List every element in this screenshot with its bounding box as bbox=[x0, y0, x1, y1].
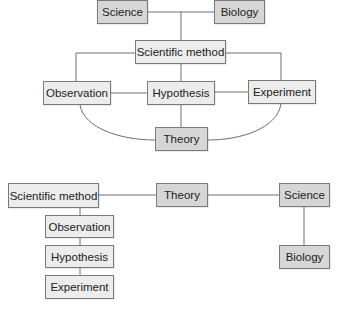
bottom-node-observation: Observation bbox=[45, 215, 114, 238]
bottom-node-biology: Biology bbox=[279, 245, 330, 269]
bottom-node-theory: Theory bbox=[156, 183, 208, 207]
edge-observation-theory bbox=[80, 105, 155, 140]
top-node-hypothesis: Hypothesis bbox=[147, 81, 215, 105]
top-node-biology: Biology bbox=[214, 0, 265, 24]
top-node-scientific-method: Scientific method bbox=[135, 40, 226, 64]
top-node-experiment: Experiment bbox=[248, 80, 316, 104]
top-node-science: Science bbox=[97, 0, 148, 24]
top-node-theory: Theory bbox=[155, 127, 208, 151]
bottom-node-hypothesis: Hypothesis bbox=[45, 245, 114, 268]
edge-method-observation bbox=[76, 53, 135, 81]
bottom-node-scientific-method: Scientific method bbox=[8, 183, 99, 208]
bottom-node-experiment: Experiment bbox=[45, 275, 114, 299]
edge-method-experiment bbox=[226, 53, 281, 80]
edge-experiment-theory bbox=[208, 104, 281, 140]
bottom-node-science: Science bbox=[279, 183, 330, 207]
top-node-observation: Observation bbox=[43, 81, 111, 105]
